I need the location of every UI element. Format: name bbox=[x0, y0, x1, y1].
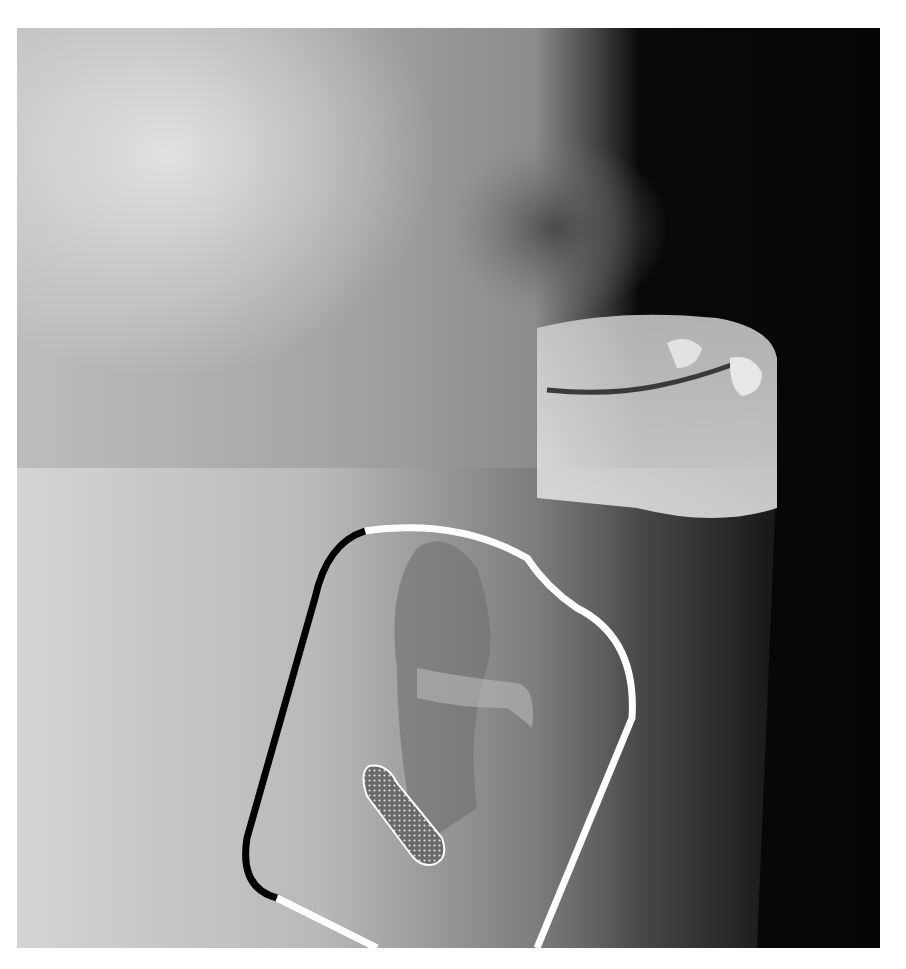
radiograph-canvas bbox=[17, 28, 880, 948]
sinus-shadow bbox=[447, 138, 667, 318]
neck-region bbox=[17, 468, 777, 948]
mandible-region bbox=[537, 315, 777, 518]
radiograph-image bbox=[17, 28, 880, 948]
